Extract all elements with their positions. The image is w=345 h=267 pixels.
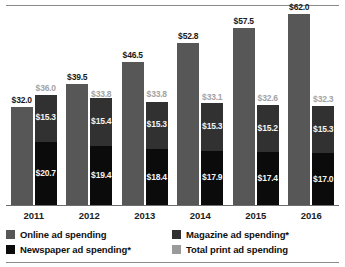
value-label-online: $62.0 [288,3,310,12]
value-label-magazine: $15.3 [312,125,334,134]
bar-group: $39.5$33.8$15.4$19.4 [66,14,112,206]
value-label-magazine: $15.3 [146,120,168,129]
x-tick-2016: 2016 [284,210,340,221]
bar-segment-online [288,14,310,206]
legend-swatch-total-print-icon [172,245,181,254]
bar-online[interactable] [11,107,33,206]
value-label-total-print: $32.6 [257,94,279,103]
value-label-online: $32.0 [11,96,33,105]
bar-segment-online [233,28,255,206]
x-tick-2014: 2014 [173,210,229,221]
plot-area: $32.0$36.0$15.3$20.7$39.5$33.8$15.4$19.4… [6,14,339,206]
value-label-total-print: $32.3 [312,95,334,104]
bar-print-stack[interactable] [312,106,334,206]
x-axis-baseline [6,205,339,206]
x-axis-tick-labels: 201120122013201420152016 [6,208,339,224]
value-label-total-print: $33.8 [90,90,112,99]
legend-swatch-magazine-icon [172,230,181,239]
legend-swatch-newspaper-icon [6,245,15,254]
bar-segment-online [122,62,144,206]
value-label-newspaper: $20.7 [35,169,57,178]
bar-online[interactable] [233,28,255,206]
x-tick-2013: 2013 [117,210,173,221]
legend-item-online[interactable]: Online ad spending [6,227,106,242]
value-label-total-print: $33.1 [201,93,223,102]
value-label-magazine: $15.3 [35,113,57,122]
legend-row-1: Online ad spending Magazine ad spending* [6,227,339,242]
bar-online[interactable] [177,43,199,207]
x-tick-2015: 2015 [228,210,284,221]
chart-figure: $32.0$36.0$15.3$20.7$39.5$33.8$15.4$19.4… [0,0,345,267]
bar-online[interactable] [288,14,310,206]
value-label-newspaper: $17.0 [312,175,334,184]
legend-label-newspaper: Newspaper ad spending* [20,244,131,255]
value-label-total-print: $33.8 [146,90,168,99]
value-label-online: $39.5 [66,73,88,82]
bar-group: $46.5$33.8$15.3$18.4 [122,14,168,206]
value-label-magazine: $15.2 [257,124,279,133]
legend-item-total-print[interactable]: Total print ad spending [172,242,288,257]
x-tick-2012: 2012 [62,210,118,221]
value-label-newspaper: $18.4 [146,173,168,182]
legend-item-magazine[interactable]: Magazine ad spending* [172,227,289,242]
bar-group: $32.0$36.0$15.3$20.7 [11,14,57,206]
bar-segment-online [177,43,199,207]
bar-print-stack[interactable] [201,104,223,207]
legend-label-magazine: Magazine ad spending* [186,229,289,240]
value-label-online: $52.8 [177,32,199,41]
x-tick-2011: 2011 [6,210,62,221]
value-label-newspaper: $17.9 [201,173,223,182]
value-label-newspaper: $17.4 [257,174,279,183]
bar-segment-online [11,107,33,206]
bar-online[interactable] [122,62,144,206]
value-label-online: $57.5 [233,17,255,26]
bar-group: $62.0$32.3$15.3$17.0 [288,14,334,206]
value-label-magazine: $15.4 [90,117,112,126]
legend-label-total-print: Total print ad spending [186,244,288,255]
bar-segment-online [66,84,88,206]
bar-group: $57.5$32.6$15.2$17.4 [233,14,279,206]
bottom-divider-rule [6,262,339,263]
value-label-online: $46.5 [122,51,144,60]
legend-swatch-online-icon [6,230,15,239]
chart-legend: Online ad spending Magazine ad spending*… [6,227,339,259]
legend-label-online: Online ad spending [20,229,106,240]
legend-row-2: Newspaper ad spending* Total print ad sp… [6,242,339,257]
value-label-total-print: $36.0 [35,84,57,93]
bar-print-stack[interactable] [146,101,168,206]
value-label-magazine: $15.3 [201,122,223,131]
bar-print-stack[interactable] [257,105,279,206]
value-label-newspaper: $19.4 [90,171,112,180]
bar-online[interactable] [66,84,88,206]
bar-group: $52.8$33.1$15.3$17.9 [177,14,223,206]
legend-item-newspaper[interactable]: Newspaper ad spending* [6,242,131,257]
